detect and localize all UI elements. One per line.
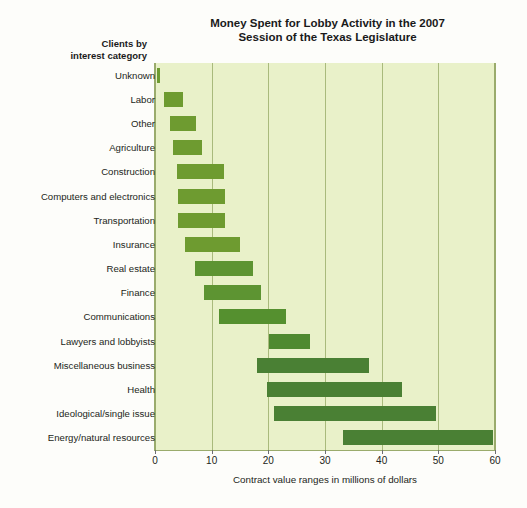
bar-computers-and-electronics	[178, 189, 226, 204]
category-label-communications: Communications	[0, 311, 155, 322]
category-label-finance: Finance	[0, 287, 155, 298]
x-tick-label-0: 0	[135, 455, 175, 466]
category-label-unknown: Unknown	[0, 70, 155, 81]
bar-construction	[177, 164, 225, 179]
bar-miscellaneous-business	[257, 358, 369, 373]
bar-agriculture	[173, 140, 202, 155]
category-label-other: Other	[0, 118, 155, 129]
bar-energy-natural-resources	[343, 430, 493, 445]
gridline-50	[438, 63, 439, 450]
x-tick-mark-10	[212, 450, 213, 454]
category-label-miscellaneous-business: Miscellaneous business	[0, 360, 155, 371]
category-label-insurance: Insurance	[0, 239, 155, 250]
bar-other	[170, 116, 196, 131]
category-label-ideological-single-issue: Ideological/single issue	[0, 408, 155, 419]
category-label-transportation: Transportation	[0, 215, 155, 226]
bar-ideological-single-issue	[274, 406, 436, 421]
bar-unknown	[157, 68, 160, 83]
x-tick-mark-30	[325, 450, 326, 454]
chart-title-line-2: Session of the Texas Legislature	[155, 30, 500, 44]
category-label-health: Health	[0, 384, 155, 395]
category-label-construction: Construction	[0, 166, 155, 177]
x-tick-label-20: 20	[248, 455, 288, 466]
x-axis-title: Contract value ranges in millions of dol…	[155, 474, 495, 485]
x-tick-label-30: 30	[305, 455, 345, 466]
category-label-labor: Labor	[0, 94, 155, 105]
category-label-computers-and-electronics: Computers and electronics	[0, 191, 155, 202]
x-tick-mark-50	[438, 450, 439, 454]
chart-title: Money Spent for Lobby Activity in the 20…	[155, 16, 500, 44]
x-tick-label-40: 40	[362, 455, 402, 466]
bar-transportation	[178, 213, 226, 228]
chart-title-line-1: Money Spent for Lobby Activity in the 20…	[155, 16, 500, 30]
bar-communications	[219, 309, 286, 324]
x-tick-mark-60	[495, 450, 496, 454]
x-tick-mark-0	[155, 450, 156, 454]
x-tick-label-60: 60	[475, 455, 515, 466]
chart-figure: Money Spent for Lobby Activity in the 20…	[0, 0, 527, 508]
bar-labor	[164, 92, 184, 107]
bar-lawyers-and-lobbyists	[269, 334, 309, 349]
x-tick-label-50: 50	[418, 455, 458, 466]
category-label-energy-natural-resources: Energy/natural resources	[0, 432, 155, 443]
bar-insurance	[185, 237, 240, 252]
bar-finance	[204, 285, 261, 300]
x-tick-mark-20	[268, 450, 269, 454]
bar-real-estate	[195, 261, 253, 276]
category-label-agriculture: Agriculture	[0, 142, 155, 153]
category-label-lawyers-and-lobbyists: Lawyers and lobbyists	[0, 336, 155, 347]
x-tick-mark-40	[382, 450, 383, 454]
gridline-10	[212, 63, 213, 450]
plot-right-border	[494, 63, 496, 450]
y-axis-title-line-2: interest category	[27, 50, 147, 62]
y-axis-title: Clients by interest category	[27, 38, 147, 61]
bar-health	[267, 382, 402, 397]
category-label-real-estate: Real estate	[0, 263, 155, 274]
y-axis-title-line-1: Clients by	[27, 38, 147, 50]
x-tick-label-10: 10	[192, 455, 232, 466]
